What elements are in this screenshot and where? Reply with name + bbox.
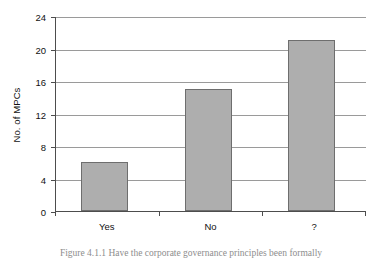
y-axis-title: No. of MPCs bbox=[11, 88, 22, 143]
x-tick-mark-0 bbox=[55, 212, 56, 216]
x-axis-line bbox=[55, 211, 366, 212]
y-tick-label-20: 20 bbox=[35, 44, 46, 55]
bar-unknown bbox=[288, 40, 335, 211]
y-tick-label-16: 16 bbox=[35, 77, 46, 88]
y-tick-label-12: 12 bbox=[35, 109, 46, 120]
x-tick-label-unknown: ? bbox=[311, 221, 316, 232]
y-tick-label-8: 8 bbox=[41, 142, 46, 153]
bar-no bbox=[185, 89, 232, 211]
gridline-24 bbox=[55, 17, 366, 18]
x-tick-label-no: No bbox=[204, 221, 216, 232]
x-tick-mark-2 bbox=[262, 212, 263, 216]
y-axis-line bbox=[55, 17, 56, 212]
y-tick-label-0: 0 bbox=[41, 206, 46, 217]
x-tick-mark-3 bbox=[365, 212, 366, 216]
y-tick-label-24: 24 bbox=[35, 12, 46, 23]
plot-area: 24 20 16 12 8 4 0 Yes No ? bbox=[55, 17, 366, 212]
y-tick-label-4: 4 bbox=[41, 174, 46, 185]
figure-caption: Figure 4.1.1 Have the corporate governan… bbox=[0, 248, 382, 258]
bar-yes bbox=[81, 162, 128, 211]
x-tick-label-yes: Yes bbox=[99, 221, 115, 232]
x-tick-mark-1 bbox=[159, 212, 160, 216]
